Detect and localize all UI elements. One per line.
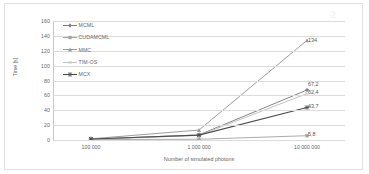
gridline-0 [53, 140, 345, 141]
y-tick-40: 40 [30, 107, 50, 113]
data-label-timos: 62,4 [308, 89, 319, 95]
x-tick-1000000: 1 000 000 [164, 144, 234, 150]
legend-label-mcml: MCML [79, 22, 95, 28]
legend-label-mmc: MMC [79, 47, 92, 53]
chart-container: 2 160 140 120 100 80 60 40 20 0 Time [s]… [4, 3, 363, 170]
legend-marker-icon-mcx [63, 71, 77, 78]
y-tick-140: 140 [30, 33, 50, 39]
y-axis-title: Time [s] [12, 45, 18, 89]
legend-item-mcml[interactable]: MCML [63, 19, 123, 31]
series-line-mmc [91, 40, 307, 138]
legend-label-mcx: MCX [79, 71, 91, 77]
legend-marker-icon-timos [63, 59, 77, 66]
legend-marker-icon-mcml [63, 22, 77, 29]
y-tick-100: 100 [30, 63, 50, 69]
legend-marker-icon-cudamcml [63, 34, 77, 41]
y-tick-20: 20 [30, 122, 50, 128]
series-line-tim-os [91, 94, 307, 140]
x-axis-tick-labels: 100 000 1 000 000 10 000 000 [53, 144, 345, 154]
series-marker-mcx [197, 133, 202, 138]
legend-item-timos[interactable]: TIM-OS [63, 56, 123, 68]
y-tick-160: 160 [30, 18, 50, 24]
gridline-60 [53, 95, 345, 96]
chart-legend: MCML CUDAMCML MMC [63, 19, 123, 80]
page-artifact-mark: 2 [326, 8, 340, 21]
x-tick-100000: 100 000 [56, 144, 126, 150]
y-tick-80: 80 [30, 78, 50, 84]
gridline-40 [53, 110, 345, 111]
y-axis-tick-labels: 160 140 120 100 80 60 40 20 0 [27, 21, 50, 140]
y-tick-60: 60 [30, 92, 50, 98]
data-label-mcml: 67,2 [308, 81, 319, 87]
legend-item-mmc[interactable]: MMC [63, 44, 123, 56]
legend-item-mcx[interactable]: MCX [63, 68, 123, 80]
gridline-80 [53, 81, 345, 82]
data-label-cudamcml: 5,8 [308, 131, 316, 137]
x-axis-title: Number of simulated photons [53, 156, 345, 162]
legend-item-cudamcml[interactable]: CUDAMCML [63, 31, 123, 43]
legend-marker-icon-mmc [63, 46, 77, 53]
legend-label-cudamcml: CUDAMCML [79, 34, 110, 40]
legend-label-timos: TIM-OS [79, 59, 98, 65]
data-label-mmc: 134 [308, 37, 317, 43]
gridline-20 [53, 125, 345, 126]
x-tick-10000000: 10 000 000 [272, 144, 342, 150]
y-tick-120: 120 [30, 48, 50, 54]
y-tick-0: 0 [30, 137, 50, 143]
data-label-mcx: 43,7 [308, 103, 319, 109]
